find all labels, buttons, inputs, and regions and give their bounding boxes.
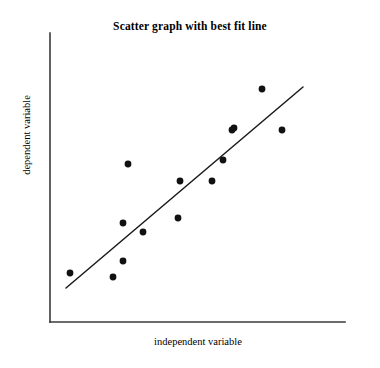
scatter-chart: Scatter graph with best fit line indepen… [0, 0, 380, 368]
data-point [120, 258, 127, 265]
data-point [67, 270, 74, 277]
data-point [259, 86, 266, 93]
data-point [220, 157, 227, 164]
axes-group [50, 33, 345, 322]
x-axis-label: independent variable [50, 336, 346, 347]
data-point [177, 178, 184, 185]
data-point [120, 220, 127, 227]
data-points-group [67, 86, 286, 281]
data-point [279, 127, 286, 134]
data-point [209, 178, 216, 185]
data-point [125, 161, 132, 168]
y-axis-label: dependent variable [21, 95, 32, 175]
y-axis-label-wrapper: dependent variable [16, 65, 36, 205]
data-point [175, 215, 182, 222]
best-fit-line-segment [66, 87, 303, 288]
data-point [229, 127, 236, 134]
plot-area [0, 0, 380, 368]
data-point [140, 229, 147, 236]
data-point [110, 274, 117, 281]
best-fit-line [66, 87, 303, 288]
